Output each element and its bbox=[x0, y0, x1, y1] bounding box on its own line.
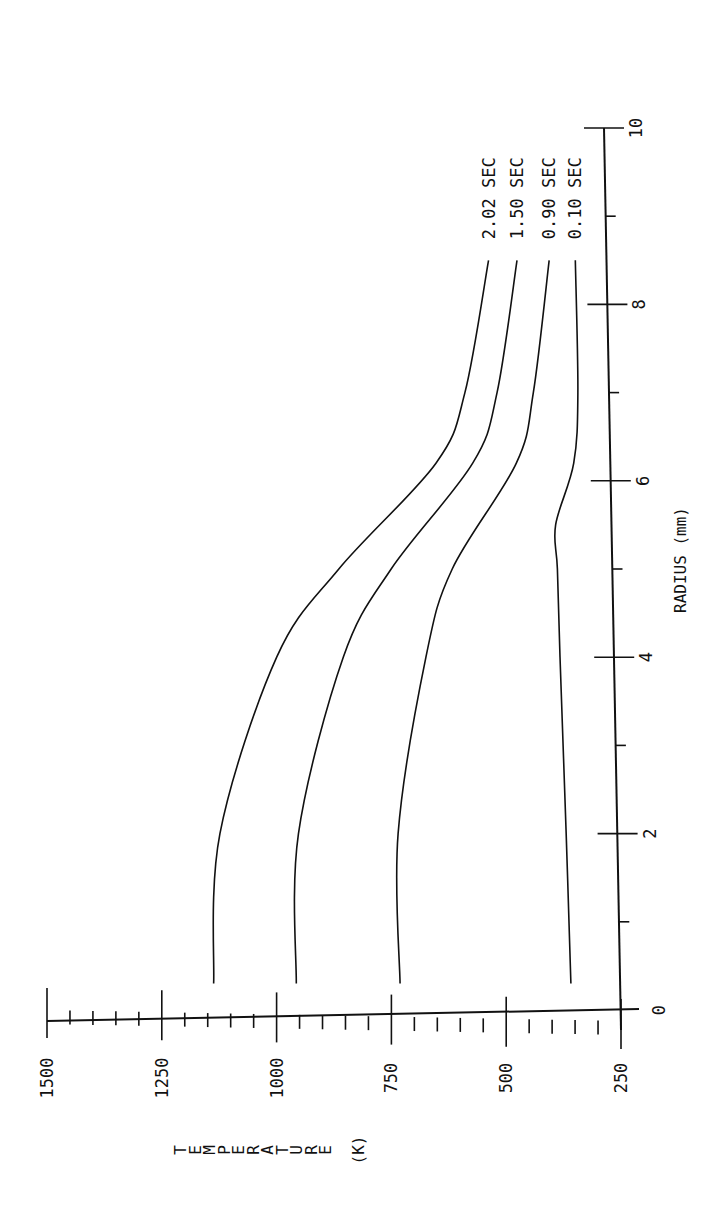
series-label: 2.02 SEC bbox=[479, 157, 499, 239]
temperature-unit-label: (K) bbox=[349, 1136, 368, 1165]
series-curves bbox=[213, 260, 578, 983]
series-curve bbox=[213, 260, 488, 983]
radius-tick-label: 6 bbox=[633, 476, 653, 486]
series-label: 1.50 SEC bbox=[507, 157, 527, 239]
temperature-axis-label-letter: E bbox=[316, 1145, 335, 1155]
series-curve bbox=[294, 260, 517, 983]
temperature-tick-label: 1000 bbox=[267, 1058, 287, 1099]
radius-axis-label: RADIUS (mm) bbox=[671, 507, 690, 613]
radius-axis bbox=[604, 128, 621, 1030]
axes bbox=[47, 128, 639, 1049]
radius-tick-label: 10 bbox=[626, 118, 646, 138]
radius-tick-label: 8 bbox=[629, 299, 649, 309]
temperature-axis bbox=[47, 1009, 639, 1021]
series-label: 0.90 SEC bbox=[539, 157, 559, 239]
temperature-tick-label: 250 bbox=[611, 1063, 631, 1094]
radius-tick-label: 2 bbox=[640, 828, 660, 838]
temperature-tick-label: 500 bbox=[496, 1063, 516, 1094]
temperature-tick-label: 1250 bbox=[152, 1058, 172, 1099]
radius-tick-label: 0 bbox=[649, 1005, 669, 1015]
temperature-radius-chart: 2468100250500750100012501500TEMPERATURE(… bbox=[0, 0, 718, 1216]
temperature-tick-label: 750 bbox=[381, 1063, 401, 1094]
series-curve bbox=[397, 260, 550, 983]
series-label: 0.10 SEC bbox=[565, 157, 585, 239]
temperature-tick-label: 1500 bbox=[37, 1058, 57, 1099]
series-curve bbox=[555, 260, 578, 983]
radius-tick-label: 4 bbox=[636, 652, 656, 662]
labels: 2468100250500750100012501500TEMPERATURE(… bbox=[37, 118, 690, 1165]
